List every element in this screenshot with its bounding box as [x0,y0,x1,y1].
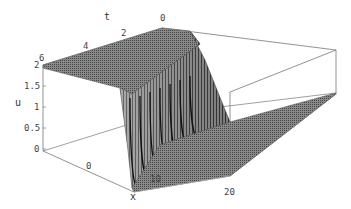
t-tick-6: 6 [39,54,44,63]
u-tick-0: 0 [34,145,39,154]
u-tick-2: 2 [34,61,39,70]
u-tick-1-5: 1.5 [24,82,40,91]
x-tick-0: 0 [86,162,91,171]
t-tick-2: 2 [121,29,126,38]
u-tick-0-5: 0.5 [24,124,40,133]
t-axis-title: t [104,12,110,22]
x-tick-10: 10 [150,175,161,184]
surface-plot [0,0,351,209]
t-tick-0: 0 [160,14,165,23]
u-axis-ticks [43,65,46,149]
u-tick-1: 1 [34,103,39,112]
x-tick-20: 20 [224,188,235,197]
u-axis-title: u [15,98,21,108]
t-tick-4: 4 [83,42,88,51]
x-axis-title: x [130,192,136,202]
